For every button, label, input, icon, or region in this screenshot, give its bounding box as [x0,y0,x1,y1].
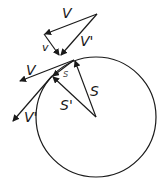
orbit-vector-diagram [0,0,161,185]
label-orbit-S: S [90,84,99,98]
label-orbit-S-prime: S' [60,98,73,112]
label-orbit-s: s [63,69,68,79]
label-orbit-V: V [26,63,36,77]
label-triangle-V: V [62,6,72,20]
label-orbit-V-prime: V' [24,110,37,124]
label-triangle-V-prime: V' [80,34,93,48]
label-triangle-v: v [42,42,49,53]
